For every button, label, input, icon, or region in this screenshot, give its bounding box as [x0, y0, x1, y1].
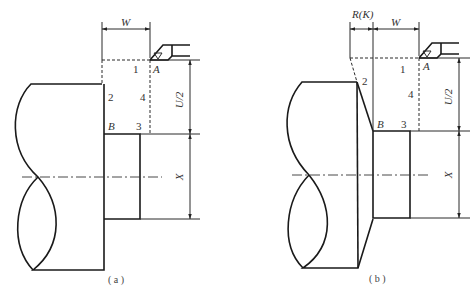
cut-region-a: [102, 60, 200, 134]
label-x-b: X: [442, 170, 454, 179]
turning-cycle-diagram: W U/2 X 1 2 3 4 A B ( a ): [0, 0, 472, 292]
step-2-label-b: 2: [362, 75, 368, 87]
cutting-tool-icon: [419, 43, 459, 58]
label-w: W: [121, 16, 131, 28]
caption-b: ( b ): [369, 273, 386, 285]
step-2-label: 2: [108, 91, 114, 103]
step-3-label: 3: [136, 120, 142, 132]
cutting-tool-icon: [150, 45, 190, 60]
label-u2-b: U/2: [442, 88, 454, 105]
step-4-label-b: 4: [408, 88, 414, 100]
label-rk: R(K): [351, 8, 374, 21]
step-1-label-b: 1: [400, 63, 406, 75]
step-1-label: 1: [133, 63, 139, 75]
dimension-w-a: W: [102, 16, 150, 60]
label-w-b: W: [391, 16, 401, 28]
label-u2: U/2: [173, 91, 185, 108]
dimension-vertical-a: U/2 X: [173, 60, 190, 219]
panel-a: W U/2 X 1 2 3 4 A B ( a ): [15, 16, 200, 286]
caption-a: ( a ): [108, 274, 124, 286]
dimension-vertical-b: U/2 X: [442, 58, 459, 218]
point-a-label: A: [152, 63, 160, 75]
point-b-label: B: [108, 120, 115, 132]
step-3-label-b: 3: [401, 118, 407, 130]
label-x: X: [173, 172, 185, 181]
point-a-label-b: A: [422, 60, 430, 72]
panel-b: R(K) W U/2 X 1 2 3 4 A B ( b ): [287, 8, 470, 285]
point-b-label-b: B: [377, 118, 384, 130]
step-4-label: 4: [140, 91, 146, 103]
dimension-top-b: R(K) W: [350, 8, 419, 131]
